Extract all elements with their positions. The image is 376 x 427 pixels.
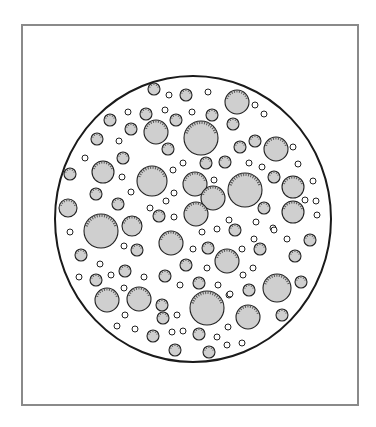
- small-particle: [205, 89, 211, 95]
- large-particle: [215, 249, 239, 273]
- small-particle: [114, 323, 120, 329]
- large-particle: [59, 199, 77, 217]
- small-particle: [82, 155, 88, 161]
- small-particle: [171, 190, 177, 196]
- small-particle: [141, 274, 147, 280]
- small-particle: [97, 261, 103, 267]
- large-particle: [263, 274, 291, 302]
- small-particle: [147, 205, 153, 211]
- small-particle: [132, 326, 138, 332]
- large-particle: [84, 214, 118, 248]
- small-particle: [290, 144, 296, 150]
- large-particle: [144, 120, 168, 144]
- large-particle: [184, 202, 208, 226]
- small-particle: [246, 160, 252, 166]
- small-particle: [116, 138, 122, 144]
- small-particle: [166, 92, 172, 98]
- small-particle: [204, 265, 210, 271]
- large-particle: [92, 161, 114, 183]
- small-particle: [180, 160, 186, 166]
- small-particle: [250, 265, 256, 271]
- small-particle: [226, 217, 232, 223]
- small-particle: [174, 312, 180, 318]
- small-particle: [190, 246, 196, 252]
- small-particle: [239, 340, 245, 346]
- large-particle: [264, 137, 288, 161]
- small-particle: [252, 102, 258, 108]
- small-particle: [214, 334, 220, 340]
- large-particle: [159, 231, 183, 255]
- small-particle: [253, 219, 259, 225]
- small-particle: [314, 212, 320, 218]
- small-particle: [121, 243, 127, 249]
- small-particle: [302, 197, 308, 203]
- large-particle: [127, 287, 151, 311]
- small-particle: [119, 174, 125, 180]
- small-particle: [128, 189, 134, 195]
- large-particle: [225, 90, 249, 114]
- small-particle: [121, 285, 127, 291]
- small-particle: [284, 236, 290, 242]
- small-particle: [162, 107, 168, 113]
- large-particle: [190, 291, 224, 325]
- small-particle: [240, 272, 246, 278]
- small-particle: [215, 282, 221, 288]
- small-particle: [189, 109, 195, 115]
- large-particle: [95, 288, 119, 312]
- small-particle: [295, 161, 301, 167]
- microscope-field-figure: [0, 0, 376, 427]
- small-particle: [251, 236, 257, 242]
- small-particle: [225, 324, 231, 330]
- small-particle: [313, 198, 319, 204]
- large-particle: [122, 216, 142, 236]
- small-particle: [261, 111, 267, 117]
- small-particle: [310, 178, 316, 184]
- small-particle: [163, 198, 169, 204]
- small-particle: [108, 272, 114, 278]
- small-particle: [169, 329, 175, 335]
- large-particle: [236, 305, 260, 329]
- large-particle: [137, 166, 167, 196]
- small-particle: [259, 164, 265, 170]
- small-particle: [271, 227, 277, 233]
- small-particle: [224, 342, 230, 348]
- small-particle: [227, 291, 233, 297]
- small-particle: [76, 274, 82, 280]
- small-particle: [170, 167, 176, 173]
- large-particle: [282, 201, 304, 223]
- small-particle: [171, 214, 177, 220]
- large-particle: [228, 173, 262, 207]
- large-particle: [282, 176, 304, 198]
- small-particle: [180, 328, 186, 334]
- small-particle: [199, 229, 205, 235]
- small-particle: [239, 246, 245, 252]
- small-particle: [211, 177, 217, 183]
- small-particle: [67, 229, 73, 235]
- small-particle: [122, 312, 128, 318]
- small-particle: [214, 226, 220, 232]
- small-particle: [177, 282, 183, 288]
- small-particle: [125, 109, 131, 115]
- large-particle: [184, 121, 218, 155]
